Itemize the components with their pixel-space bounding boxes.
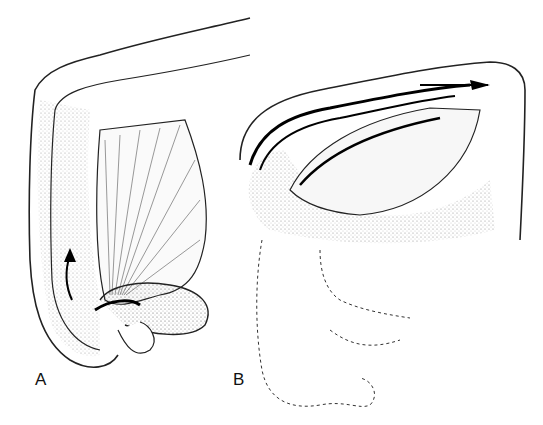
panel-label-b: B	[233, 370, 244, 390]
panel-b-drawing	[240, 62, 525, 406]
anatomical-illustration	[0, 0, 543, 425]
dashed-outline	[257, 240, 410, 406]
panel-a-drawing	[29, 18, 250, 367]
panel-label-a: A	[35, 370, 46, 390]
